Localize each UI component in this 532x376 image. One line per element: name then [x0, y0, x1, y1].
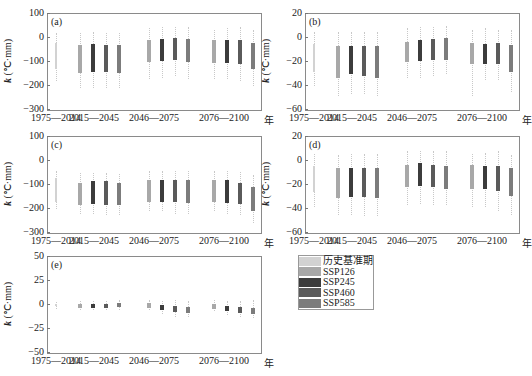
- box-SSP245: [160, 180, 164, 202]
- y-tick-label: 0: [16, 299, 44, 309]
- y-tick-mark: [305, 37, 308, 38]
- box-SSP126: [147, 303, 151, 308]
- y-tick-mark: [305, 13, 308, 14]
- y-tick-mark: [47, 304, 50, 305]
- box-SSP585: [375, 168, 379, 198]
- y-axis-unit: (℃·mm): [260, 39, 271, 76]
- box-SSP585: [444, 38, 448, 60]
- box-SSP245: [349, 46, 353, 74]
- box-SSP585: [509, 168, 513, 196]
- x-tick-label: 2076—2100: [199, 112, 249, 123]
- y-tick-mark: [305, 109, 308, 110]
- x-tick-label: 2076—2100: [457, 112, 507, 123]
- x-tick-label: 2046—2075: [387, 235, 437, 246]
- legend-label: 历史基准期: [323, 256, 373, 266]
- box-SSP126: [336, 168, 340, 198]
- y-tick-mark: [47, 352, 50, 353]
- box-SSP245: [418, 163, 422, 186]
- y-tick-mark: [47, 13, 50, 14]
- x-tick-label: 2046—2075: [129, 235, 179, 246]
- y-tick-mark: [47, 61, 50, 62]
- y-tick-label: −20: [274, 56, 302, 66]
- panel-label: (c): [51, 139, 62, 150]
- box-SSP460: [173, 180, 177, 202]
- y-tick-label: 0: [274, 32, 302, 42]
- box-SSP245: [160, 39, 164, 61]
- x-tick-label: 2046—2075: [129, 112, 179, 123]
- legend: 历史基准期 SSP126 SSP245 SSP460 SSP585: [298, 255, 374, 310]
- x-tick-label: 2046—2075: [387, 112, 437, 123]
- y-tick-mark: [47, 280, 50, 281]
- x-tick-label: 2015—2045: [69, 235, 119, 246]
- y-tick-label: −100: [16, 56, 44, 66]
- x-axis-unit: 年: [264, 112, 274, 127]
- y-tick-label: −40: [274, 203, 302, 213]
- y-tick-label: 0: [16, 32, 44, 42]
- box-SSP245: [160, 305, 164, 310]
- box-SSP245: [483, 166, 487, 189]
- y-tick-mark: [305, 160, 308, 161]
- x-axis-unit: 年: [264, 235, 274, 250]
- x-tick-label: 2015—2045: [327, 235, 377, 246]
- box-SSP245: [91, 44, 95, 72]
- box-历史基准期: [55, 178, 57, 202]
- legend-swatch: [299, 257, 321, 266]
- box-SSP245: [225, 40, 229, 63]
- plot-area-e: (e): [47, 256, 262, 354]
- box-SSP585: [251, 187, 255, 211]
- box-SSP126: [405, 165, 409, 188]
- y-axis-label: k (℃·mm): [2, 162, 13, 206]
- plot-area-b: (b): [305, 13, 520, 111]
- y-tick-mark: [47, 37, 50, 38]
- box-SSP585: [186, 307, 190, 313]
- box-SSP126: [147, 40, 151, 62]
- box-SSP126: [405, 42, 409, 62]
- y-tick-mark: [47, 109, 50, 110]
- y-tick-mark: [305, 208, 308, 209]
- box-SSP585: [186, 180, 190, 203]
- x-tick-label: 2076—2100: [199, 235, 249, 246]
- x-tick-label: 2015—2045: [69, 355, 119, 366]
- y-tick-mark: [47, 160, 50, 161]
- legend-label: SSP126: [323, 267, 355, 277]
- panel-label: (a): [51, 16, 62, 27]
- y-tick-label: −200: [16, 80, 44, 90]
- y-tick-mark: [305, 61, 308, 62]
- box-SSP460: [173, 38, 177, 60]
- box-SSP245: [225, 306, 229, 311]
- legend-swatch: [299, 267, 321, 276]
- x-axis-unit: 年: [264, 355, 274, 370]
- box-SSP460: [238, 40, 242, 64]
- panel-label: (b): [309, 16, 321, 27]
- x-tick-label: 2015—2045: [69, 112, 119, 123]
- box-历史基准期: [55, 43, 57, 69]
- y-axis-unit: (℃·mm): [2, 162, 13, 199]
- x-tick-label: 2076—2100: [199, 355, 249, 366]
- y-tick-label: −25: [16, 323, 44, 333]
- box-SSP245: [349, 168, 353, 197]
- box-SSP245: [225, 180, 229, 203]
- box-SSP245: [91, 304, 95, 308]
- box-SSP126: [212, 40, 216, 63]
- box-SSP585: [251, 308, 255, 314]
- box-SSP460: [104, 181, 108, 205]
- y-tick-mark: [305, 136, 308, 137]
- y-tick-label: 0: [16, 155, 44, 165]
- box-SSP126: [78, 304, 82, 308]
- legend-label: SSP245: [323, 277, 355, 287]
- box-SSP245: [91, 181, 95, 204]
- legend-item-ssp245: SSP245: [299, 277, 373, 288]
- box-SSP460: [104, 304, 108, 308]
- y-tick-mark: [47, 208, 50, 209]
- box-SSP460: [238, 307, 242, 313]
- y-tick-label: −20: [274, 179, 302, 189]
- box-SSP585: [186, 39, 190, 62]
- y-axis-label: k (℃·mm): [260, 39, 271, 83]
- y-axis-unit: (℃·mm): [2, 39, 13, 76]
- y-tick-label: −100: [16, 179, 44, 189]
- y-tick-label: 50: [16, 251, 44, 261]
- box-SSP126: [470, 43, 474, 65]
- plot-area-a: (a): [47, 13, 262, 111]
- y-tick-mark: [47, 232, 50, 233]
- y-tick-mark: [47, 184, 50, 185]
